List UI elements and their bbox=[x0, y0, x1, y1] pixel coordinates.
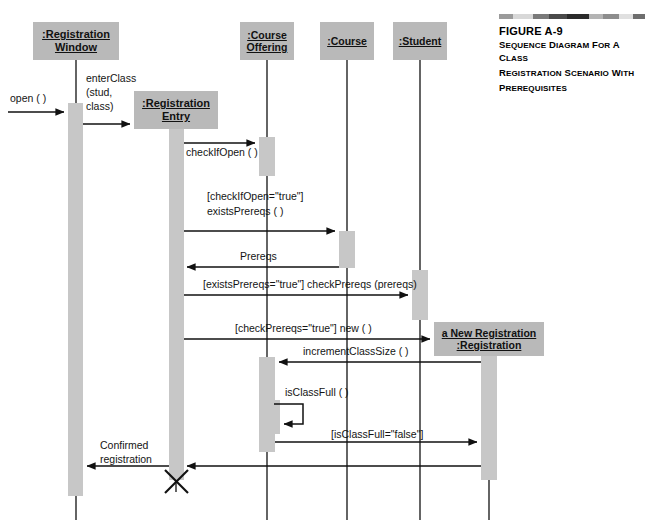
object-label-line1: :Registration bbox=[142, 97, 210, 110]
activation-bars bbox=[68, 103, 497, 496]
figure-page: :Registration Window :Registration Entry… bbox=[0, 0, 648, 525]
activation-new-registration bbox=[481, 356, 497, 480]
message-label-prereqs: Prereqs bbox=[240, 250, 277, 263]
activation-registration-entry bbox=[169, 129, 184, 480]
message-label-new: [checkPrereqs="true"] new ( ) bbox=[235, 322, 372, 335]
message-label-is-class-full: isClassFull ( ) bbox=[285, 386, 349, 399]
activation-course-1 bbox=[339, 231, 355, 268]
guard-label-is-class-full-false: [isClassFull="false"] bbox=[331, 428, 423, 441]
object-new-registration[interactable]: a New Registration :Registration bbox=[434, 322, 544, 356]
message-label-enter-class-1: enterClass bbox=[86, 72, 136, 85]
message-label-enter-class-2: (stud, bbox=[86, 86, 112, 99]
message-label-check-if-open: checkIfOpen ( ) bbox=[186, 146, 258, 159]
message-label-exists-prereqs: existsPrereqs ( ) bbox=[207, 205, 283, 218]
object-student[interactable]: :Student bbox=[393, 22, 447, 60]
guard-label-check-if-open: [checkIfOpen="true"] bbox=[207, 190, 303, 203]
activation-registration-window bbox=[68, 103, 83, 496]
object-label-line2: Offering bbox=[247, 41, 288, 53]
message-label-check-prereqs: [existsPrereqs="true"] checkPrereqs (pre… bbox=[203, 278, 417, 291]
object-label-line1: :Registration bbox=[42, 28, 110, 41]
object-course-offering[interactable]: :Course Offering bbox=[240, 22, 294, 60]
figure-number: FIGURE A-9 bbox=[499, 25, 645, 37]
message-label-enter-class-3: class) bbox=[86, 100, 113, 113]
activation-course-offering-self bbox=[268, 400, 280, 434]
message-label-open: open ( ) bbox=[10, 92, 46, 105]
figure-caption-line-1: SEQUENCE DIAGRAM FOR A CLASS bbox=[499, 39, 645, 65]
object-label-line2: Window bbox=[55, 41, 97, 54]
figure-caption-block: FIGURE A-9 SEQUENCE DIAGRAM FOR A CLASS … bbox=[499, 14, 645, 94]
message-label-increment-class-size: incrementClassSize ( ) bbox=[303, 345, 409, 358]
object-label-line1: :Course bbox=[327, 35, 367, 47]
message-label-confirmed-2: registration bbox=[100, 453, 152, 466]
object-label-line2: :Registration bbox=[457, 339, 522, 351]
object-label-line1: :Course bbox=[247, 29, 287, 41]
figure-caption-bar bbox=[499, 14, 645, 19]
figure-caption-line-2: REGISTRATION SCENARIO WITH bbox=[499, 67, 645, 80]
object-label-line2: Entry bbox=[162, 110, 190, 123]
object-course[interactable]: :Course bbox=[320, 22, 374, 60]
figure-caption-line-3: PREREQUISITES bbox=[499, 82, 645, 95]
message-label-confirmed-1: Confirmed bbox=[100, 439, 148, 452]
object-registration-window[interactable]: :Registration Window bbox=[33, 22, 119, 60]
activation-course-offering-1 bbox=[259, 137, 275, 176]
object-registration-entry[interactable]: :Registration Entry bbox=[134, 91, 218, 129]
object-label-line1: a New Registration bbox=[442, 327, 537, 339]
object-label-line1: :Student bbox=[399, 35, 442, 47]
